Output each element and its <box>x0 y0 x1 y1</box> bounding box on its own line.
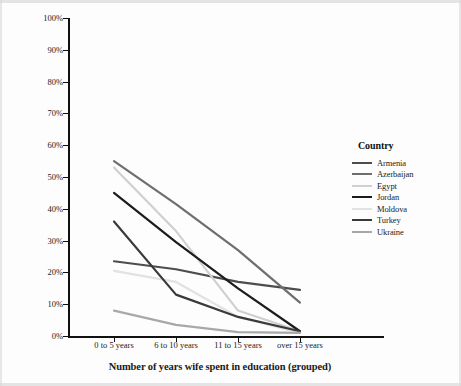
scan-artifact-top <box>0 0 461 3</box>
legend-swatch-icon <box>352 208 372 210</box>
legend-item-label: Armenia <box>377 158 406 168</box>
legend-title: Country <box>358 140 456 151</box>
legend-item-ukraine[interactable]: Ukraine <box>352 226 456 238</box>
x-tick-mark <box>300 336 301 342</box>
legend: Country ArmeniaAzerbaijanEgyptJordanMold… <box>352 140 456 238</box>
legend-item-armenia[interactable]: Armenia <box>352 157 456 169</box>
x-axis-title: Number of years wife spent in education … <box>40 361 400 372</box>
scan-artifact-left <box>0 0 2 386</box>
series-lines <box>68 18 340 336</box>
series-line-azerbaijan <box>114 161 300 303</box>
legend-item-label: Jordan <box>377 192 399 202</box>
legend-item-jordan[interactable]: Jordan <box>352 192 456 204</box>
x-axis-line <box>68 336 384 338</box>
legend-item-label: Ukraine <box>377 227 404 237</box>
legend-item-label: Moldova <box>377 204 407 214</box>
legend-swatch-icon <box>352 196 372 198</box>
legend-item-azerbaijan[interactable]: Azerbaijan <box>352 169 456 181</box>
legend-item-turkey[interactable]: Turkey <box>352 215 456 227</box>
legend-item-label: Turkey <box>377 215 401 225</box>
legend-swatch-icon <box>352 173 372 175</box>
legend-item-label: Azerbaijan <box>377 169 413 179</box>
legend-item-egypt[interactable]: Egypt <box>352 180 456 192</box>
x-tick-mark <box>114 336 115 342</box>
legend-swatch-icon <box>352 162 372 164</box>
plot-area: 0%10%20%30%40%50%60%70%80%90%100% 0 to 5… <box>68 18 340 336</box>
legend-items: ArmeniaAzerbaijanEgyptJordanMoldovaTurke… <box>352 157 456 238</box>
chart-figure: Believe GBV is justified, if wife argues… <box>0 0 461 386</box>
y-tick-mark <box>63 336 68 337</box>
legend-swatch-icon <box>352 219 372 221</box>
legend-swatch-icon <box>352 231 372 233</box>
x-tick-mark <box>238 336 239 342</box>
x-tick-mark <box>176 336 177 342</box>
legend-item-label: Egypt <box>377 181 397 191</box>
series-line-jordan <box>114 193 300 331</box>
legend-item-moldova[interactable]: Moldova <box>352 203 456 215</box>
legend-swatch-icon <box>352 185 372 187</box>
